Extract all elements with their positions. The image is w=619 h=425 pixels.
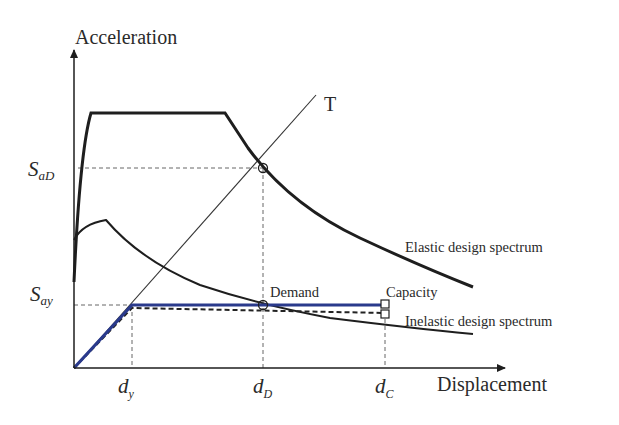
capacity-spectrum-diagram: Acceleration Displacement SaD Say dy dD … [0, 0, 619, 425]
y-axis-label: Acceleration [75, 26, 177, 48]
x-axis-label: Displacement [437, 373, 547, 396]
capacity-point-marker [381, 300, 389, 308]
inelastic-spectrum-label: Inelastic design spectrum [405, 313, 553, 329]
period-line-label: T [324, 93, 336, 115]
demand-label: Demand [270, 284, 320, 300]
elastic-spectrum-label: Elastic design spectrum [405, 239, 543, 255]
capacity-label: Capacity [386, 284, 438, 300]
capacity-curve [74, 305, 385, 368]
dd-label: dD [253, 374, 273, 401]
elastic-design-spectrum-curve [74, 113, 473, 287]
guide-lines [74, 168, 385, 368]
say-label: Say [30, 282, 53, 308]
sad-label: SaD [28, 157, 55, 183]
capacity-degraded-marker [381, 310, 389, 318]
dy-label: dy [118, 374, 135, 401]
dc-label: dC [375, 374, 395, 401]
